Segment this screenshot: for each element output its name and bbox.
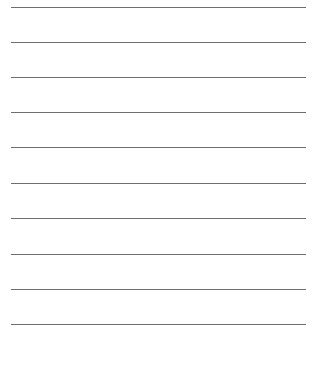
ruled-line (11, 77, 306, 78)
ruled-line (11, 112, 306, 113)
ruled-line (11, 42, 306, 43)
ruled-line (11, 183, 306, 184)
ruled-line (11, 254, 306, 255)
ruled-line (11, 324, 306, 325)
ruled-line (11, 218, 306, 219)
ruled-line (11, 147, 306, 148)
lined-paper (0, 0, 330, 367)
ruled-line (11, 289, 306, 290)
ruled-line (11, 7, 306, 8)
